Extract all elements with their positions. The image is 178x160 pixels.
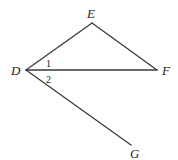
geometry-diagram: D E F G 1 2 xyxy=(0,0,178,160)
segment-ef xyxy=(92,23,157,70)
segment-dg xyxy=(26,70,131,145)
point-label-d: D xyxy=(10,63,21,78)
angle-label-2: 2 xyxy=(46,74,51,85)
point-label-g: G xyxy=(130,146,140,160)
point-label-e: E xyxy=(86,6,95,21)
point-label-f: F xyxy=(161,63,171,78)
angle-label-1: 1 xyxy=(46,58,51,69)
segment-de xyxy=(26,23,92,70)
